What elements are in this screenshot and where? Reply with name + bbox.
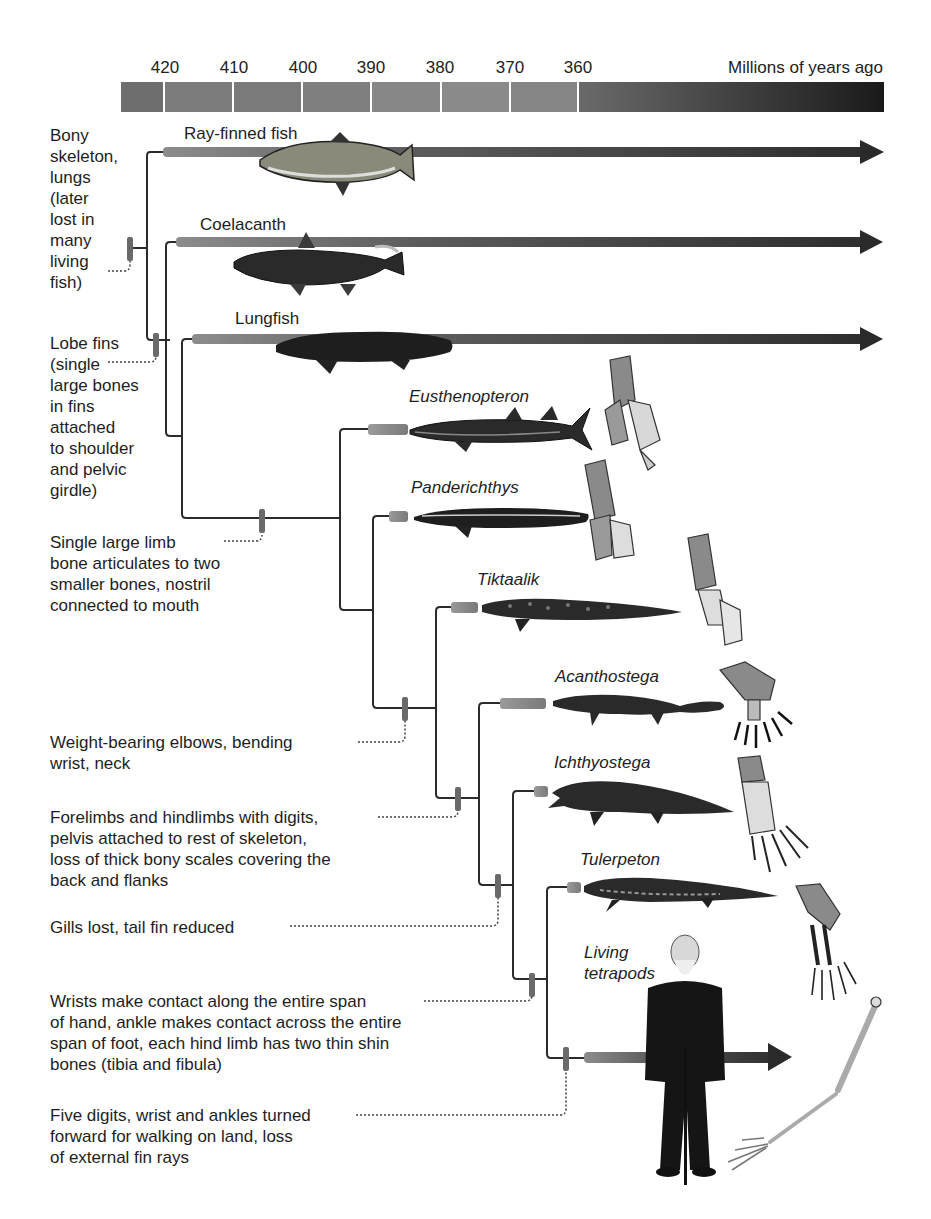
acanthostega-illustration — [553, 695, 724, 726]
trait-note-wrist-ankle-contact: Wrists make contact along the entire spa… — [50, 991, 402, 1075]
trait-note-bony-skeleton: Bony skeleton, lungs (later lost in many… — [50, 125, 118, 293]
tulerpeton-limb-bones — [796, 884, 856, 1000]
taxon-label-ray-finned-fish: Ray-finned fish — [184, 124, 297, 144]
ichthyostega-illustration — [548, 781, 734, 826]
taxon-label-living-tetrapods: Living tetrapods — [584, 942, 655, 984]
trait-note-digits-pelvis: Forelimbs and hindlimbs with digits, pel… — [50, 807, 331, 891]
trait-note-gills-lost: Gills lost, tail fin reduced — [50, 917, 234, 938]
taxon-label-tiktaalik: Tiktaalik — [477, 570, 539, 590]
trait-note-weight-bearing-elbows: Weight-bearing elbows, bending wrist, ne… — [50, 732, 293, 774]
trait-note-five-digits: Five digits, wrist and ankles turned for… — [50, 1105, 311, 1168]
lungfish-illustration — [276, 332, 453, 374]
acanthostega-limb-bones — [720, 662, 792, 748]
taxon-label-lungfish: Lungfish — [235, 309, 299, 329]
taxon-label-panderichthys: Panderichthys — [411, 478, 519, 498]
tiktaalik-illustration — [482, 599, 682, 632]
eusthenopteron-limb-bones — [605, 356, 660, 470]
taxon-label-tulerpeton: Tulerpeton — [580, 850, 660, 870]
eusthenopteron-illustration — [410, 406, 592, 452]
panderichthys-illustration — [414, 508, 589, 538]
human-figure-illustration — [645, 935, 725, 1185]
taxon-label-eusthenopteron: Eusthenopteron — [409, 387, 529, 407]
trait-note-limb-bone-articulation: Single large limb bone articulates to tw… — [50, 532, 220, 616]
tiktaalik-limb-bones — [688, 534, 742, 645]
panderichthys-limb-bones — [585, 460, 634, 560]
ichthyostega-limb-bones — [738, 756, 808, 872]
human-arm-bones — [728, 997, 881, 1170]
trait-note-lobe-fins: Lobe fins (single large bones in fins at… — [50, 333, 139, 501]
tulerpeton-illustration — [584, 878, 778, 912]
taxon-label-coelacanth: Coelacanth — [200, 215, 286, 235]
taxon-label-ichthyostega: Ichthyostega — [554, 753, 650, 773]
taxon-label-acanthostega: Acanthostega — [555, 667, 659, 687]
